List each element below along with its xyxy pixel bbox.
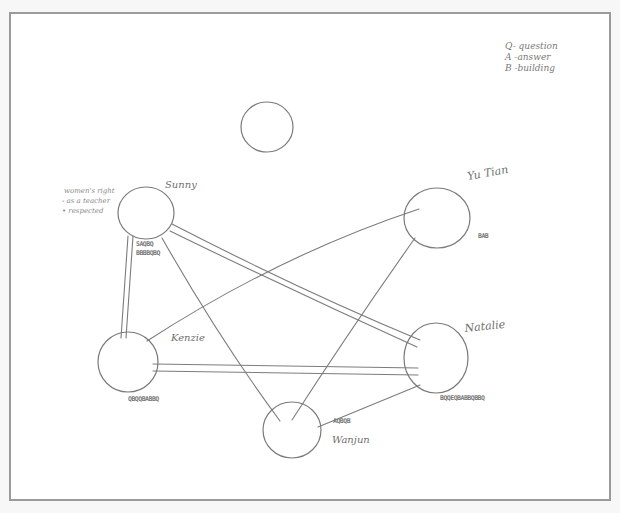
node-label-wanjun: Wanjun xyxy=(332,434,370,445)
natalie-codes: BQQEQBABBQBBQ xyxy=(440,394,485,402)
node-circle-wanjun xyxy=(263,402,321,458)
edge-yutian-wanjun xyxy=(292,238,415,420)
node-label-sunny: Sunny xyxy=(165,179,197,190)
node-circle-kenzie xyxy=(98,332,158,392)
kenzie-codes: QBQQBABBQ xyxy=(128,395,159,403)
sunny-note-2: - as a teacher xyxy=(62,197,111,205)
network-diagram: Q- question A -answer B -building Sunny … xyxy=(0,0,620,513)
node-circle-natalie xyxy=(404,323,468,393)
legend-item-building: B -building xyxy=(504,63,555,73)
sunny-codes-line1: SAQBQ xyxy=(136,240,154,248)
node-label-kenzie: Kenzie xyxy=(170,332,205,343)
node-label-natalie: Natalie xyxy=(463,318,506,335)
edge-kenzie-yutian xyxy=(147,209,419,341)
edge-kenzie-natalie xyxy=(153,364,418,375)
legend-item-answer: A -answer xyxy=(504,52,551,62)
sunny-note-1: women's right xyxy=(64,187,115,195)
edge-sunny-natalie xyxy=(170,224,420,347)
node-circle-yutian xyxy=(404,188,470,248)
node-label-yutian: Yu Tian xyxy=(466,163,509,183)
sunny-codes-line2: BBBBQBQ xyxy=(136,249,160,257)
legend-item-question: Q- question xyxy=(505,41,558,51)
node-circle-unnamed xyxy=(241,102,293,152)
wanjun-codes: AQBQB xyxy=(333,417,351,425)
sunny-note-3: • respected xyxy=(62,207,104,215)
edge-sunny-kenzie xyxy=(121,236,133,338)
node-circle-sunny xyxy=(118,187,174,239)
edge-sunny-wanjun xyxy=(162,238,280,421)
yutian-codes: BAB xyxy=(478,232,489,240)
legend: Q- question A -answer B -building xyxy=(504,41,558,73)
